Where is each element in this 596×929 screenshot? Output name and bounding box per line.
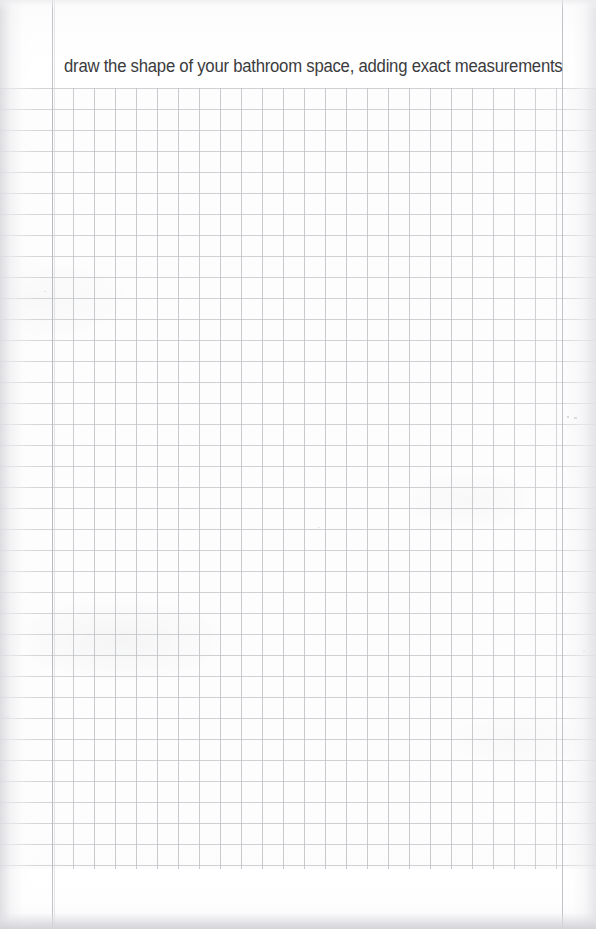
floorplan-drawing-area[interactable] [52,88,563,869]
footer-band [0,869,596,929]
instruction-text: draw the shape of your bathroom space, a… [64,56,542,77]
worksheet-page: draw the shape of your bathroom space, a… [0,0,596,929]
